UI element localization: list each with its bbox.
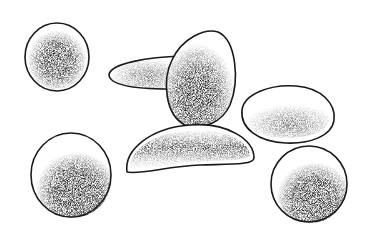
cell-oval-right — [242, 86, 334, 143]
cell-crescent-bottom — [127, 125, 254, 173]
cell-egg-upright — [166, 31, 235, 126]
cell-round-bottom-right — [271, 146, 347, 223]
cell-round-top-left — [25, 23, 89, 91]
cell-round-bottom-left — [31, 133, 111, 218]
stipple-cells-illustration — [0, 0, 370, 242]
